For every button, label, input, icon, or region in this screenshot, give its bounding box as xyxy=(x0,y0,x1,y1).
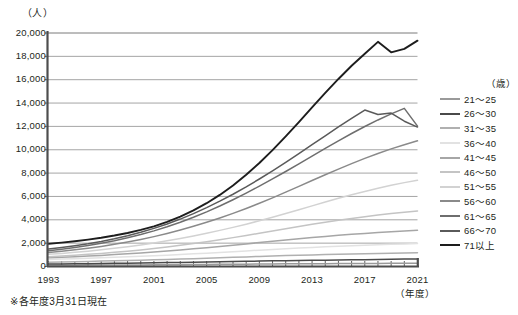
legend-item-7[interactable]: 56〜60 xyxy=(440,194,518,209)
x-axis-tick-label: 1997 xyxy=(78,275,124,285)
y-axis-tick-label: 4,000 xyxy=(0,214,46,224)
x-axis-tick-label: 2013 xyxy=(289,275,335,285)
legend-item-label: 51〜55 xyxy=(464,181,496,192)
legend-item-4[interactable]: 41〜45 xyxy=(440,150,518,165)
legend-item-5[interactable]: 46〜50 xyxy=(440,165,518,180)
legend-item-6[interactable]: 51〜55 xyxy=(440,180,518,195)
legend-swatch-icon xyxy=(440,171,460,173)
legend-item-2[interactable]: 31〜35 xyxy=(440,121,518,136)
legend-item-10[interactable]: 71以上 xyxy=(440,238,518,253)
legend-swatch-icon xyxy=(440,230,460,232)
legend-item-label: 46〜50 xyxy=(464,167,496,178)
chart-legend: （歳） 21〜2526〜3031〜3536〜4041〜4546〜5051〜555… xyxy=(440,78,518,253)
series-line xyxy=(49,110,418,249)
legend-swatch-icon xyxy=(440,113,460,115)
legend-rows: 21〜2526〜3031〜3536〜4041〜4546〜5051〜5556〜60… xyxy=(440,92,518,253)
legend-item-1[interactable]: 26〜30 xyxy=(440,107,518,122)
y-axis-tick-label: 12,000 xyxy=(0,121,46,131)
axis-lines xyxy=(47,31,419,267)
legend-swatch-icon xyxy=(440,244,460,246)
y-axis-tick-label: 2,000 xyxy=(0,238,46,248)
y-axis-tick-label: 8,000 xyxy=(0,168,46,178)
legend-swatch-icon xyxy=(440,157,460,159)
legend-item-label: 66〜70 xyxy=(464,225,496,236)
legend-swatch-icon xyxy=(440,127,460,129)
y-axis-tick-label: 0 xyxy=(0,261,46,271)
legend-swatch-icon xyxy=(440,215,460,217)
y-axis-tick-label: 18,000 xyxy=(0,51,46,61)
y-axis-tick-label: 14,000 xyxy=(0,98,46,108)
legend-title: （歳） xyxy=(440,78,518,89)
legend-item-label: 56〜60 xyxy=(464,196,496,207)
x-axis-tick-label: 2005 xyxy=(184,275,230,285)
chart-footnote: ※各年度3月31日現在 xyxy=(10,296,107,308)
legend-swatch-icon xyxy=(440,186,460,188)
legend-item-0[interactable]: 21〜25 xyxy=(440,92,518,107)
gridlines xyxy=(49,33,418,243)
legend-item-label: 21〜25 xyxy=(464,94,496,105)
y-axis-tick-label: 10,000 xyxy=(0,144,46,154)
x-axis-tick-label: 2021 xyxy=(395,275,441,285)
x-axis-tick-label: 2001 xyxy=(131,275,177,285)
legend-item-8[interactable]: 61〜65 xyxy=(440,209,518,224)
x-axis-tick-label: 2017 xyxy=(342,275,388,285)
data-series-lines xyxy=(49,41,418,266)
y-axis-tick-label: 6,000 xyxy=(0,191,46,201)
chart-page: （人） 20,00018,00016,00014,00012,00010,000… xyxy=(0,0,518,315)
legend-item-label: 41〜45 xyxy=(464,152,496,163)
legend-swatch-icon xyxy=(440,98,460,100)
y-axis-tick-label: 16,000 xyxy=(0,74,46,84)
x-axis-unit-label: （年度） xyxy=(392,289,438,299)
legend-item-label: 26〜30 xyxy=(464,108,496,119)
legend-swatch-icon xyxy=(440,200,460,202)
legend-item-label: 71以上 xyxy=(464,240,495,251)
y-axis-tick-label: 20,000 xyxy=(0,28,46,38)
legend-item-label: 61〜65 xyxy=(464,211,496,222)
legend-swatch-icon xyxy=(440,142,460,144)
x-axis-tick-label: 1993 xyxy=(26,275,72,285)
legend-item-label: 31〜35 xyxy=(464,123,496,134)
legend-item-9[interactable]: 66〜70 xyxy=(440,223,518,238)
legend-item-label: 36〜40 xyxy=(464,138,496,149)
series-line xyxy=(49,108,418,250)
x-axis-tick-label: 2009 xyxy=(236,275,282,285)
legend-item-3[interactable]: 36〜40 xyxy=(440,136,518,151)
